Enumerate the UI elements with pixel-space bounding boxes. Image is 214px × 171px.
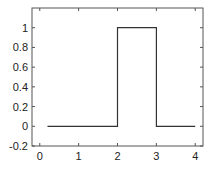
y-tick-label: 0.4 bbox=[13, 81, 28, 93]
y-tick-label: 1 bbox=[22, 22, 28, 34]
y-tick-label: 0.2 bbox=[13, 101, 28, 113]
y-tick-label: 0.8 bbox=[13, 41, 28, 53]
y-axis: -0.200.20.40.60.81 bbox=[9, 22, 203, 152]
x-tick-label: 0 bbox=[37, 150, 43, 162]
x-tick-label: 3 bbox=[153, 150, 159, 162]
series-line-pulse bbox=[48, 28, 196, 127]
y-tick-label: 0.6 bbox=[13, 61, 28, 73]
x-tick-label: 4 bbox=[192, 150, 198, 162]
x-tick-label: 1 bbox=[76, 150, 82, 162]
pulse-chart: 01234 -0.200.20.40.60.81 bbox=[0, 0, 214, 171]
plot-area bbox=[32, 8, 203, 146]
y-tick-label: -0.2 bbox=[9, 140, 28, 152]
x-tick-label: 2 bbox=[114, 150, 120, 162]
y-tick-label: 0 bbox=[22, 120, 28, 132]
